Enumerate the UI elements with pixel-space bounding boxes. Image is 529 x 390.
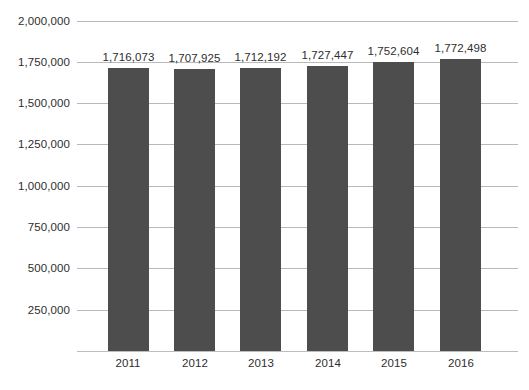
y-axis-tick-label: 1,500,000: [0, 97, 70, 109]
axis-baseline: [77, 351, 518, 352]
bar-value-label: 1,716,073: [102, 51, 154, 63]
y-axis-tick-label: 1,250,000: [0, 138, 70, 150]
plot-area: 1,716,073 1,707,925 1,712,192 1,727,447 …: [84, 21, 518, 351]
bar-value-label: 1,752,604: [367, 45, 419, 57]
bar[interactable]: [373, 62, 414, 351]
bar-group: 1,727,447: [307, 21, 348, 351]
bar-group: 1,707,925: [174, 21, 215, 351]
bar[interactable]: [174, 69, 215, 351]
bar[interactable]: [108, 68, 149, 351]
bar-group: 1,712,192: [240, 21, 281, 351]
bar-value-label: 1,727,447: [301, 49, 353, 61]
bar-group: 1,716,073: [108, 21, 149, 351]
bar[interactable]: [240, 68, 281, 351]
bar-value-label: 1,712,192: [234, 51, 286, 63]
x-axis-category-label: 2015: [381, 357, 407, 369]
x-axis-category-label: 2013: [248, 357, 274, 369]
y-axis-tick-label: 2,000,000: [0, 15, 70, 27]
bar[interactable]: [307, 66, 348, 351]
y-axis-tick-label: 250,000: [0, 304, 70, 316]
bar-value-label: 1,772,498: [434, 42, 486, 54]
y-axis-tick-label: 1,750,000: [0, 56, 70, 68]
x-axis-category-label: 2011: [115, 357, 140, 369]
bar-chart: 2,000,000 1,750,000 1,500,000 1,250,000 …: [0, 0, 529, 390]
y-axis-tick-label: 750,000: [0, 221, 70, 233]
y-axis-tick-label: 500,000: [0, 262, 70, 274]
bar[interactable]: [440, 59, 481, 351]
bar-value-label: 1,707,925: [168, 52, 220, 64]
bar-group: 1,752,604: [373, 21, 414, 351]
y-axis-tick-label: 1,000,000: [0, 180, 70, 192]
x-axis-category-label: 2016: [448, 357, 474, 369]
bar-group: 1,772,498: [440, 21, 481, 351]
x-axis-category-label: 2014: [315, 357, 341, 369]
x-axis-category-label: 2012: [182, 357, 208, 369]
